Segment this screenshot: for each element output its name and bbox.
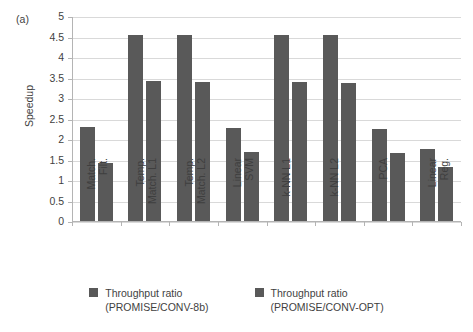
plot-area [72,17,461,222]
x-tick-mark [267,222,268,226]
legend-label-line: (PROMISE/CONV-OPT) [271,300,384,314]
x-category-label-line: k-NN L2 [328,158,340,197]
legend-item: Throughput ratio(PROMISE/CONV-8b) [89,286,208,314]
x-category-label: PCA [377,158,389,228]
x-tick-mark [121,222,122,226]
legend-swatch [89,288,98,297]
y-tick-label: 2 [24,134,64,145]
y-axis-title: Speedup [23,74,35,138]
legend-label-line: (PROMISE/CONV-8b) [105,300,208,314]
x-category-label: Temp.Match. L1 [134,158,159,228]
x-category-label: LinearReg. [426,158,451,228]
x-category-label: k-NN L1 [280,158,292,228]
x-category-label-line: Reg. [438,158,450,228]
speedup-bar-chart-figure: (a) Speedup 54.543.532.521.510.50 Match.… [0,0,473,332]
x-category-label-line: Filt. [98,158,110,228]
x-category-label-line: Match. [85,158,97,190]
y-tick-label: 1 [24,175,64,186]
legend-label-line: Throughput ratio [271,287,348,299]
chart-legend: Throughput ratio(PROMISE/CONV-8b)Through… [0,286,473,314]
x-tick-mark [72,222,73,226]
legend-label: Throughput ratio(PROMISE/CONV-8b) [105,286,208,314]
x-category-label-line: Match. L1 [146,158,158,228]
x-category-label: k-NN L2 [328,158,340,228]
x-category-label: Match.Filt. [85,158,110,228]
x-category-label: LinearSVM [231,158,256,228]
x-category-label-line: Linear [231,158,243,187]
y-tick-label: 0 [24,216,64,227]
y-tick-label: 1.5 [24,155,64,166]
y-tick-label: 3 [24,93,64,104]
y-tick-label: 4 [24,52,64,63]
x-category-label-line: PCA [377,158,389,180]
legend-swatch [255,288,264,297]
x-tick-mark [218,222,219,226]
x-category-label-line: Temp. [134,158,146,187]
legend-label-line: Throughput ratio [105,287,182,299]
y-tick-label: 4.5 [24,32,64,43]
y-tick-label: 2.5 [24,114,64,125]
x-category-label: Temp.Match. L2 [183,158,208,228]
x-category-label-line: Match. L2 [195,158,207,228]
x-tick-mark [461,222,462,226]
x-tick-mark [364,222,365,226]
y-tick-label: 3.5 [24,73,64,84]
x-category-label-line: k-NN L1 [280,158,292,197]
plot-frame [72,17,461,222]
x-category-label-line: Temp. [183,158,195,187]
legend-item: Throughput ratio(PROMISE/CONV-OPT) [255,286,384,314]
x-tick-mark [315,222,316,226]
x-category-label-line: Linear [426,158,438,187]
y-tick-label: 0.5 [24,196,64,207]
x-category-label-line: SVM [244,158,256,228]
legend-label: Throughput ratio(PROMISE/CONV-OPT) [271,286,384,314]
x-tick-mark [412,222,413,226]
x-tick-mark [169,222,170,226]
y-tick-label: 5 [24,11,64,22]
